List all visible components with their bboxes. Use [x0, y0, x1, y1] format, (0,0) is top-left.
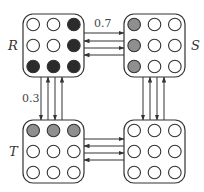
cell-gray-circle: [128, 18, 141, 31]
cell-filled-circle: [68, 60, 81, 73]
cell-filled-circle: [27, 60, 40, 73]
cell-empty-circle: [27, 39, 40, 52]
state-box-s: [124, 14, 185, 77]
cell-empty-circle: [169, 39, 182, 52]
state-diagram: 0.7 0.3 R S T: [0, 0, 204, 192]
cell-empty-circle: [128, 124, 141, 137]
cell-empty-circle: [47, 39, 60, 52]
cell-filled-circle: [68, 39, 81, 52]
cell-empty-circle: [47, 18, 60, 31]
cell-empty-circle: [128, 166, 141, 179]
state-label-s: S: [191, 38, 200, 53]
state-box-r: [23, 14, 84, 77]
state-box-u: [124, 120, 185, 183]
cell-empty-circle: [148, 166, 161, 179]
state-label-r: R: [7, 38, 18, 53]
cell-gray-circle: [47, 124, 60, 137]
cell-gray-circle: [128, 39, 141, 52]
cell-empty-circle: [148, 145, 161, 158]
cell-filled-circle: [47, 60, 60, 73]
cell-empty-circle: [148, 39, 161, 52]
cell-empty-circle: [148, 18, 161, 31]
cell-empty-circle: [169, 60, 182, 73]
state-label-t: T: [9, 144, 19, 159]
cell-gray-circle: [27, 124, 40, 137]
cell-gray-circle: [128, 60, 141, 73]
cell-empty-circle: [27, 166, 40, 179]
cell-empty-circle: [27, 18, 40, 31]
cell-empty-circle: [169, 145, 182, 158]
cell-empty-circle: [27, 145, 40, 158]
edge-label-r-t: 0.3: [22, 92, 40, 105]
cell-empty-circle: [169, 18, 182, 31]
cell-filled-circle: [68, 18, 81, 31]
state-boxes: [23, 14, 185, 183]
cell-empty-circle: [68, 166, 81, 179]
cell-empty-circle: [148, 124, 161, 137]
cell-gray-circle: [68, 124, 81, 137]
cell-empty-circle: [169, 124, 182, 137]
state-box-t: [23, 120, 84, 183]
cell-empty-circle: [68, 145, 81, 158]
cell-empty-circle: [47, 145, 60, 158]
cell-empty-circle: [169, 166, 182, 179]
cell-empty-circle: [47, 166, 60, 179]
cell-empty-circle: [128, 145, 141, 158]
cell-empty-circle: [148, 60, 161, 73]
edge-label-r-s: 0.7: [94, 17, 112, 30]
